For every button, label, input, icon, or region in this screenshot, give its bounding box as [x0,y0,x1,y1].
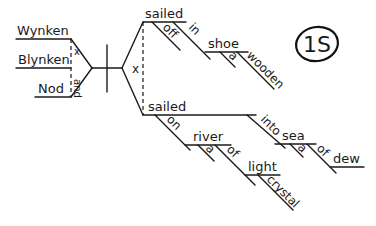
verb-sailed-bottom: sailed [148,99,186,114]
predicate-conjunction-x: x [132,62,139,76]
subject-nod: Nod [38,81,64,96]
object-light: light [248,159,277,174]
preposition-into: into [258,112,284,138]
object-sea: sea [282,128,305,143]
object-river: river [193,129,224,144]
modifier-crystal: crystal [264,172,302,210]
sentence-diagram: Wynken Blynken Nod x and x sailed off in… [0,0,376,226]
modifier-wooden: wooden [244,48,287,91]
subject-conjunction-x: x [74,46,80,57]
subject-conjunction-and: and [72,79,83,98]
verb-sailed-top: sailed [145,6,183,21]
badge-label: 1S [303,32,331,57]
subject-wynken: Wynken [17,23,69,38]
subject-blynken: Blynken [18,52,70,67]
preposition-in: in [186,20,204,38]
object-dew: dew [333,151,360,166]
modifier-off: off [160,20,181,41]
